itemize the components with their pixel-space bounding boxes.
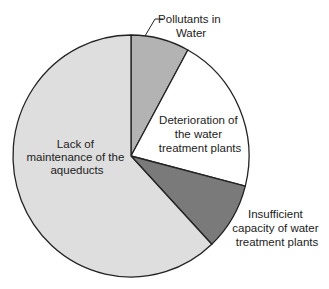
label-insufficient-capacity: Insufficient capacity of water treatment… bbox=[232, 208, 322, 248]
pie-chart: Pollutants in Water Deterioration of the… bbox=[0, 0, 329, 289]
label-pollutants: Pollutants in Water bbox=[158, 13, 224, 39]
